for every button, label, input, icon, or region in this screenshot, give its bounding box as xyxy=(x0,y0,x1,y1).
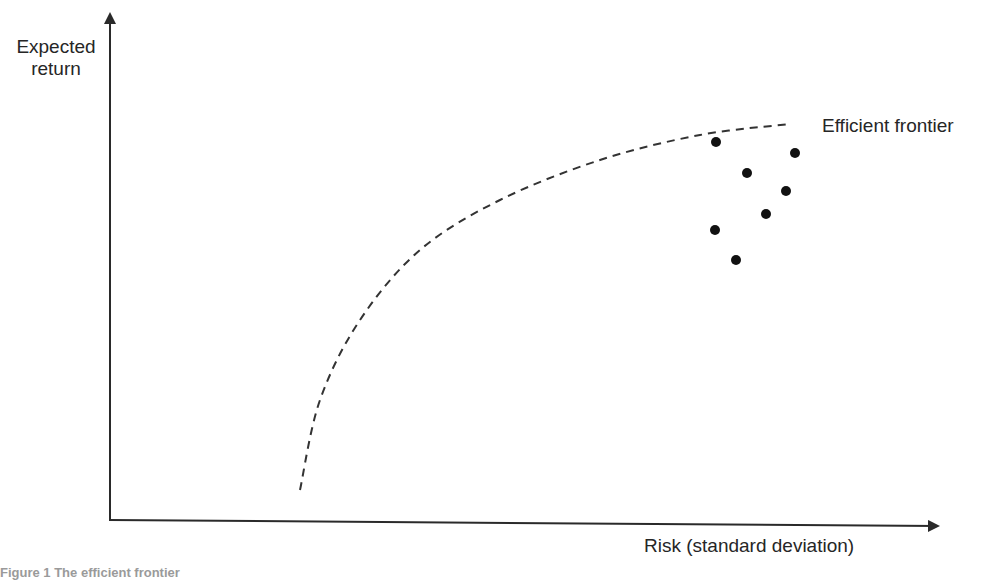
portfolio-point xyxy=(711,137,721,147)
efficient-frontier-curve xyxy=(300,124,790,490)
portfolio-point xyxy=(731,255,741,265)
portfolio-point xyxy=(761,209,771,219)
portfolio-point xyxy=(790,148,800,158)
x-axis-label: Risk (standard deviation) xyxy=(644,535,854,557)
curve-label: Efficient frontier xyxy=(822,115,954,137)
y-axis-label-line1: Expected xyxy=(6,36,106,58)
y-axis-label: Expected return xyxy=(6,36,106,80)
portfolio-point xyxy=(781,186,791,196)
portfolio-point xyxy=(742,168,752,178)
y-axis-label-line2: return xyxy=(6,58,106,80)
portfolio-point xyxy=(710,225,720,235)
x-axis xyxy=(109,520,938,526)
portfolio-points xyxy=(710,137,800,265)
figure-caption: Figure 1 The efficient frontier xyxy=(0,562,180,584)
